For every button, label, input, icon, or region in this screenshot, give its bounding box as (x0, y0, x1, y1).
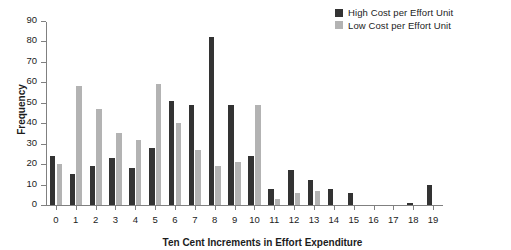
y-axis-tick: 50 (41, 103, 46, 104)
bar (90, 166, 96, 205)
bar (156, 84, 162, 205)
bar (235, 162, 241, 205)
y-axis-tick: 20 (41, 164, 46, 165)
bar (215, 166, 221, 205)
bar (149, 148, 155, 205)
bar (308, 180, 314, 205)
x-axis-tick-label: 12 (289, 214, 300, 225)
x-axis-tick (155, 206, 156, 210)
legend-swatch-high-cost-icon (335, 9, 343, 17)
bar (407, 203, 413, 205)
x-axis-tick (76, 206, 77, 210)
x-axis-tick-label: 3 (113, 214, 118, 225)
bar (96, 109, 102, 205)
bar (255, 105, 261, 205)
y-axis-tick-label: 50 (26, 96, 37, 107)
x-axis-tick-label: 4 (133, 214, 138, 225)
y-axis-tick: 40 (41, 123, 46, 124)
x-axis-tick (314, 206, 315, 210)
x-axis-tick (433, 206, 434, 210)
bar (116, 133, 122, 205)
bar (315, 191, 321, 205)
y-axis-tick-label: 20 (26, 157, 37, 168)
x-axis-tick-label: 5 (153, 214, 158, 225)
x-axis-tick (115, 206, 116, 210)
x-axis-tick-label: 16 (368, 214, 379, 225)
x-axis-tick-label: 13 (309, 214, 320, 225)
bar-chart: High Cost per Effort Unit Low Cost per E… (0, 0, 511, 250)
x-axis-tick (195, 206, 196, 210)
x-axis-tick-label: 0 (53, 214, 58, 225)
bar (176, 123, 182, 205)
bar (328, 189, 334, 205)
x-axis-tick-label: 14 (329, 214, 340, 225)
x-axis-tick-label: 18 (408, 214, 419, 225)
bar (228, 105, 234, 205)
x-axis-tick-label: 8 (212, 214, 217, 225)
x-axis-tick (354, 206, 355, 210)
bar (268, 189, 274, 205)
y-axis-tick-label: 0 (32, 198, 37, 209)
x-axis-tick (334, 206, 335, 210)
bar (275, 199, 281, 205)
y-axis-tick: 80 (41, 41, 46, 42)
y-axis-tick: 10 (41, 185, 46, 186)
bar (348, 193, 354, 205)
y-axis-tick: 30 (41, 144, 46, 145)
bar (50, 156, 56, 205)
bar (195, 150, 201, 205)
x-axis-line (46, 205, 443, 206)
y-axis-tick-label: 30 (26, 137, 37, 148)
y-axis-tick: 0 (41, 205, 46, 206)
x-axis-tick (135, 206, 136, 210)
x-axis-tick (294, 206, 295, 210)
bar (76, 86, 82, 205)
y-axis-tick-label: 40 (26, 116, 37, 127)
plot-area: 0102030405060708090 01234567891011121314… (46, 22, 443, 206)
x-axis-tick (56, 206, 57, 210)
bar (109, 158, 115, 205)
y-axis-tick-label: 60 (26, 75, 37, 86)
bar (189, 105, 195, 205)
x-axis-tick-label: 2 (93, 214, 98, 225)
x-axis-tick (374, 206, 375, 210)
bar (57, 164, 63, 205)
bar (136, 140, 142, 205)
y-axis-tick-label: 90 (26, 14, 37, 25)
x-axis-title: Ten Cent Increments in Effort Expenditur… (0, 237, 511, 248)
x-axis-tick-label: 17 (388, 214, 399, 225)
bar (209, 37, 215, 205)
y-axis-tick: 70 (41, 62, 46, 63)
y-axis-tick-label: 10 (26, 178, 37, 189)
bar (288, 170, 294, 205)
bar (129, 168, 135, 205)
x-axis-tick (175, 206, 176, 210)
x-axis-tick-label: 10 (249, 214, 260, 225)
x-axis-tick-label: 1 (73, 214, 78, 225)
y-axis-tick-label: 80 (26, 34, 37, 45)
y-axis-title: Frequency (16, 65, 27, 155)
x-axis-tick-label: 9 (232, 214, 237, 225)
x-axis-tick (393, 206, 394, 210)
y-axis-tick: 60 (41, 82, 46, 83)
x-axis-tick (413, 206, 414, 210)
legend-label-high-cost: High Cost per Effort Unit (348, 8, 453, 18)
x-axis-tick (215, 206, 216, 210)
y-axis-tick-label: 70 (26, 55, 37, 66)
x-axis-tick (274, 206, 275, 210)
bar (427, 185, 433, 205)
y-axis-line (46, 22, 47, 206)
y-axis-tick: 90 (41, 21, 46, 22)
x-axis-tick-label: 6 (172, 214, 177, 225)
legend-entry-high-cost: High Cost per Effort Unit (335, 8, 453, 18)
x-axis-tick-label: 7 (192, 214, 197, 225)
x-axis-tick (254, 206, 255, 210)
bar (295, 193, 301, 205)
bar (248, 156, 254, 205)
x-axis-tick-label: 15 (348, 214, 359, 225)
x-axis-tick-label: 11 (269, 214, 279, 225)
x-axis-tick (96, 206, 97, 210)
bar (169, 101, 175, 205)
x-axis-tick-label: 19 (428, 214, 439, 225)
bar (70, 174, 76, 205)
